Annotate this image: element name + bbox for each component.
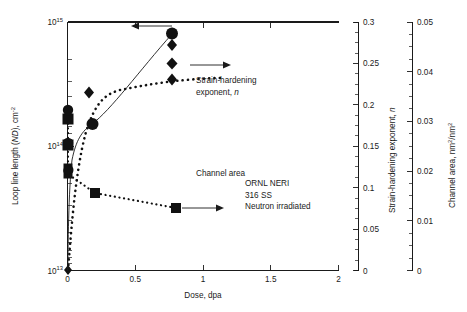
right1-tick-label-03: 0.3: [363, 18, 375, 27]
x-tick-label-1: 1: [201, 275, 206, 284]
data-point-diamond: [167, 74, 177, 86]
right1-tick-label-0: 0: [363, 267, 368, 276]
strain-hardening-annotation-line2: exponent, n: [196, 88, 239, 97]
right1-tick-label-02: 0.2: [363, 101, 375, 110]
data-point-circle: [166, 28, 178, 40]
right-axis-1-group: 0.3 0.25 0.2 0.15 0.1 0.05 0 Strain-hard…: [353, 18, 398, 276]
series-channel-area: [63, 114, 182, 214]
right2-tick-label-0: 0: [417, 267, 422, 276]
channel-area-annotation: Channel area: [196, 169, 246, 178]
data-point-circle: [63, 138, 73, 148]
left-tick-label-1e15: 1015: [47, 17, 63, 27]
data-point-diamond: [167, 39, 177, 51]
chart-svg: 1015 1014 1013 Loop line length (ND), cm…: [0, 0, 467, 312]
source-note-line1: ORNL NERI: [245, 179, 289, 188]
right1-tick-label-015: 0.15: [363, 142, 379, 151]
channel-area-arrow-annotation: [182, 205, 224, 212]
right-axis-2-title: Channel area, nm2/nm2: [447, 123, 457, 208]
left-tick-label-1e14: 1014: [47, 141, 63, 151]
right-axis-2-group: 0.05 0.04 0.03 0.02 0.01 0 Channel area,…: [407, 18, 458, 276]
right-axis-1-major-ticks: [353, 22, 359, 271]
left-tick-label-1e13: 1013: [47, 265, 63, 275]
x-tick-label-15: 1.5: [265, 275, 277, 284]
right2-tick-label-005: 0.05: [417, 18, 433, 27]
source-note-line3: Neutron irradiated: [245, 202, 311, 211]
x-tick-label-2: 2: [336, 275, 341, 284]
channel-arrow-head: [216, 205, 224, 212]
right2-tick-label-004: 0.04: [417, 68, 433, 77]
right2-tick-label-003: 0.03: [417, 117, 433, 126]
x-axis-title: Dose, dpa: [184, 291, 222, 300]
x-axis-group: 0 0.5 1 1.5 2 Dose, dpa: [65, 22, 341, 300]
data-point-diamond: [84, 87, 94, 99]
left-axis-title: Loop line length (ND), cm-2: [10, 107, 20, 205]
channel-area-dotted-line: [68, 119, 176, 208]
data-point-diamond: [167, 58, 178, 70]
right-axis-2-minor-ticks: [409, 34, 413, 258]
left-pointing-arrow-annotation: [131, 23, 172, 30]
x-tick-label-0: 0: [65, 275, 70, 284]
series-loop-line-length: [63, 28, 178, 272]
right2-tick-label-001: 0.01: [417, 217, 433, 226]
data-point-circle: [64, 165, 74, 175]
right1-tick-label-025: 0.25: [363, 59, 379, 68]
right2-tick-label-002: 0.02: [417, 167, 433, 176]
loop-line-length-solid-line: [68, 34, 172, 271]
strain-hardening-arrow-annotation: [190, 62, 231, 69]
plot-frame: [68, 22, 339, 271]
right-axis-1-title: Strain-hardening exponent, n: [388, 107, 397, 213]
data-point-circle: [63, 105, 73, 115]
data-point-circle: [87, 118, 99, 130]
strain-arrow-head: [223, 62, 231, 69]
data-point-square: [90, 188, 100, 198]
source-note-line2: 316 SS: [245, 191, 272, 200]
right1-tick-label-01: 0.1: [363, 184, 375, 193]
data-point-square: [171, 203, 181, 213]
figure-container: 1015 1014 1013 Loop line length (ND), cm…: [0, 0, 467, 312]
right1-tick-label-005: 0.05: [363, 225, 379, 234]
strain-hardening-annotation-line1: Strain-hardening: [196, 76, 257, 85]
x-tick-label-05: 0.5: [130, 275, 142, 284]
